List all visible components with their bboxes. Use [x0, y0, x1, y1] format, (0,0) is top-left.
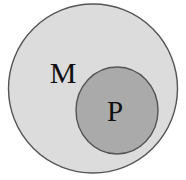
set-m-label: M — [50, 56, 77, 89]
set-p-label: P — [107, 95, 123, 127]
euler-diagram-canvas: M P — [0, 0, 186, 180]
euler-diagram-svg: M P — [0, 0, 186, 180]
